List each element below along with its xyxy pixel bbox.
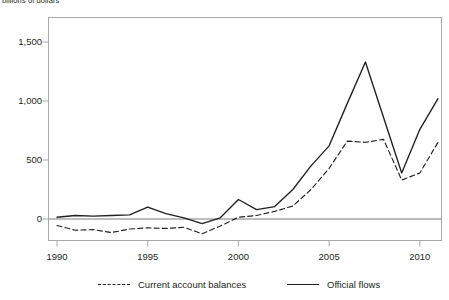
legend-item-current-account-balances: Current account balances — [98, 277, 246, 291]
x-axis-tick-label: 1990 — [37, 251, 77, 262]
legend-label: Current account balances — [138, 279, 246, 290]
y-axis-tick-label: 0 — [0, 213, 42, 224]
legend-swatch-dashed-icon — [98, 284, 130, 285]
x-axis-ticks — [57, 241, 420, 247]
legend-label: Official flows — [327, 279, 380, 290]
chart-figure: billions of dollars 05001,0001,500 19901… — [0, 0, 449, 300]
x-axis-tick-label: 1995 — [128, 251, 168, 262]
legend-swatch-solid-icon — [287, 284, 319, 285]
y-axis-tick-label: 1,000 — [0, 95, 42, 106]
y-axis-ticks — [43, 42, 49, 219]
series-line-official-flows — [57, 62, 438, 224]
plot-frame — [49, 18, 442, 241]
series-line-current-account-balances — [57, 139, 438, 233]
y-axis-tick-label: 500 — [0, 154, 42, 165]
x-axis-tick-label: 2005 — [309, 251, 349, 262]
x-axis-tick-label: 2000 — [218, 251, 258, 262]
chart-legend: Current account balances Official flows — [0, 277, 449, 297]
x-axis-tick-label: 2010 — [400, 251, 440, 262]
y-axis-tick-label: 1,500 — [0, 36, 42, 47]
data-series-group — [57, 62, 438, 234]
legend-item-official-flows: Official flows — [287, 277, 380, 291]
